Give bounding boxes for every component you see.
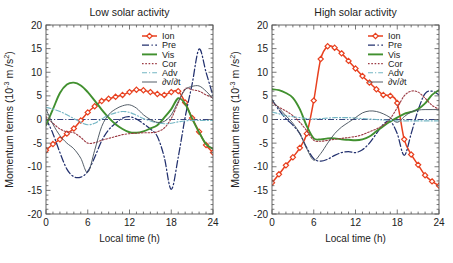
legend-label: ∂v/∂t [162, 77, 181, 87]
panel-title: Low solar activity [90, 6, 171, 18]
y-axis-label: Momentum terms (10-3 m /s2) [2, 51, 16, 187]
y-tick-label: 15 [257, 43, 269, 54]
y-tick-label: -15 [254, 185, 269, 196]
x-axis-label: Local time (h) [99, 233, 160, 244]
x-tick-label: 12 [124, 217, 136, 228]
y-tick-label: -5 [33, 138, 42, 149]
x-tick-label: 0 [269, 217, 275, 228]
chart-low-solar-activity: Low solar activity0612182420151050-5-10-… [0, 0, 226, 263]
y-tick-label: 0 [36, 114, 42, 125]
x-axis-label: Local time (h) [325, 233, 386, 244]
legend-label: ∂v/∂t [388, 77, 407, 87]
x-tick-label: 6 [311, 217, 317, 228]
y-axis-label: Momentum terms (10-3 m /s2) [228, 51, 242, 187]
x-tick-label: 24 [207, 217, 219, 228]
x-tick-label: 0 [43, 217, 49, 228]
x-tick-label: 6 [85, 217, 91, 228]
y-tick-label: 5 [36, 90, 42, 101]
y-tick-label: 10 [31, 67, 43, 78]
y-tick-label: -20 [28, 209, 43, 220]
y-tick-label: -15 [28, 185, 43, 196]
x-tick-label: 24 [433, 217, 445, 228]
x-tick-label: 12 [350, 217, 362, 228]
y-tick-label: 0 [262, 114, 268, 125]
y-tick-label: -5 [259, 138, 268, 149]
y-tick-label: 5 [262, 90, 268, 101]
panel-high-solar-activity: High solar activity0612182420151050-5-10… [226, 0, 452, 263]
y-tick-label: -20 [254, 209, 269, 220]
panel-low-solar-activity: Low solar activity0612182420151050-5-10-… [0, 0, 226, 263]
y-tick-label: 10 [257, 67, 269, 78]
y-tick-label: 15 [31, 43, 43, 54]
x-tick-label: 18 [392, 217, 404, 228]
y-tick-label: -10 [28, 161, 43, 172]
x-tick-label: 18 [166, 217, 178, 228]
y-tick-label: 20 [257, 20, 269, 31]
y-tick-label: 20 [31, 20, 43, 31]
chart-high-solar-activity: High solar activity0612182420151050-5-10… [226, 0, 453, 263]
y-tick-label: -10 [254, 161, 269, 172]
panel-title: High solar activity [314, 6, 397, 18]
figure-container: Low solar activity0612182420151050-5-10-… [0, 0, 453, 263]
